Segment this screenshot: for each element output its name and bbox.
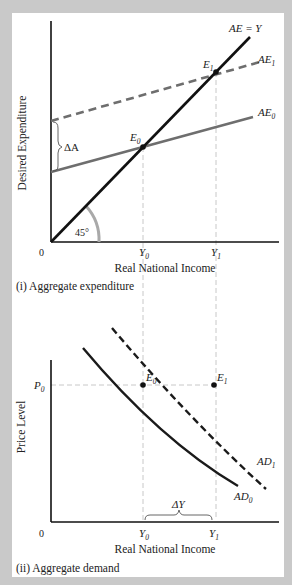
e1-point xyxy=(211,382,217,388)
e0-label: E0 xyxy=(145,371,157,386)
y-axis-label: Price Level xyxy=(15,401,27,454)
ad0-curve xyxy=(83,348,238,486)
angle-label: 45° xyxy=(75,227,89,238)
delta-a-brace-icon xyxy=(53,122,62,171)
e0-point xyxy=(140,382,146,388)
p0-tick-label: P0 xyxy=(33,379,45,394)
ae1-label: AE1 xyxy=(257,53,275,68)
ae0-label: AE0 xyxy=(257,106,275,121)
delta-y-label: ΔY xyxy=(171,498,186,510)
y-axis-label: Desired Expenditure xyxy=(16,96,29,191)
y0-tick-label: Y0 xyxy=(139,246,149,261)
ad1-label: AD1 xyxy=(256,455,275,470)
ae1-line xyxy=(51,62,260,121)
e1-label: E1 xyxy=(202,58,213,73)
ae0-line xyxy=(51,117,253,172)
ae-y-label: AE = Y xyxy=(228,22,263,34)
x-axis-label: Real National Income xyxy=(115,262,216,274)
y1-tick-label: Y1 xyxy=(209,527,219,542)
delta-y-brace-icon xyxy=(145,510,212,520)
e0-point xyxy=(140,144,146,150)
panel-caption: (i) Aggregate expenditure xyxy=(16,280,134,293)
panel-caption: (ii) Aggregate demand xyxy=(16,562,120,575)
ae-y-line xyxy=(51,37,250,242)
x-axis-label: Real National Income xyxy=(115,543,216,555)
ad1-curve xyxy=(112,328,266,489)
y0-tick-label: Y0 xyxy=(139,527,149,542)
e0-label: E0 xyxy=(129,131,141,146)
origin-label: 0 xyxy=(39,247,44,258)
delta-a-label: ΔA xyxy=(64,141,79,153)
ad0-label: AD0 xyxy=(233,490,253,505)
aggregate-demand-chart: E0 E1 P0 AD1 AD0 ΔY 0 Y0 Y1 Real Nationa… xyxy=(15,328,279,575)
e1-label: E1 xyxy=(216,371,227,386)
figure-svg: AE = Y AE1 AE0 E1 E0 ΔA 45° 0 Y0 Y1 Real… xyxy=(0,0,292,585)
origin-label: 0 xyxy=(39,528,44,539)
aggregate-expenditure-chart: AE = Y AE1 AE0 E1 E0 ΔA 45° 0 Y0 Y1 Real… xyxy=(16,21,279,520)
e1-point xyxy=(213,69,219,75)
